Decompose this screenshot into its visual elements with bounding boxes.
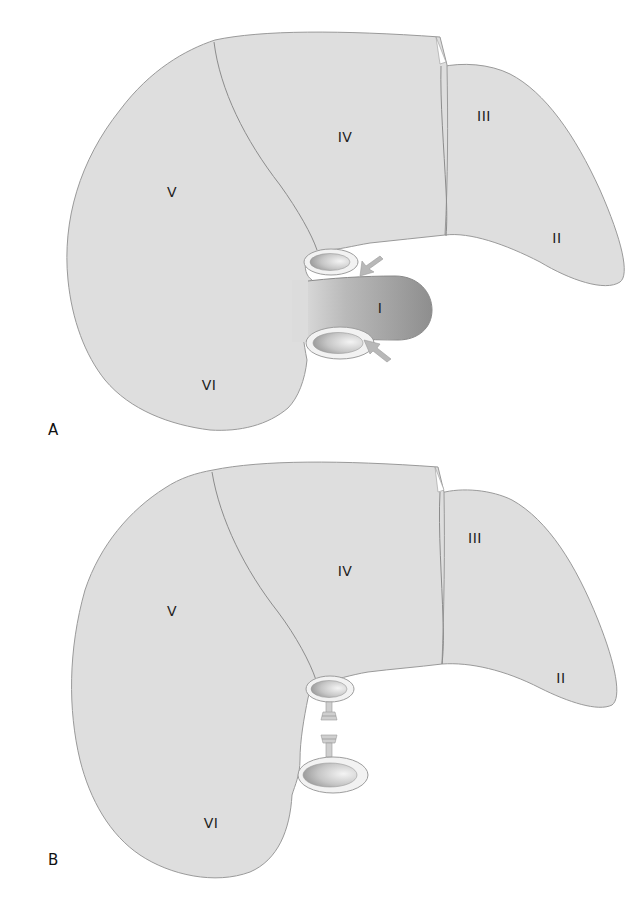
lower-vessel [298, 757, 368, 793]
ligated-stump-lower [321, 735, 337, 757]
panel-label-a: A [48, 421, 59, 439]
panel-b: IV III II V VI B [48, 462, 617, 878]
upper-vessel [306, 676, 354, 702]
segment-label-ii: II [552, 230, 561, 246]
segment-label-iii: III [468, 530, 482, 546]
panel-a: IV III II V VI I A [48, 32, 624, 439]
segment-iv-v-vi-region [67, 32, 448, 430]
panel-label-b: B [48, 851, 58, 869]
segment-label-iii: III [477, 108, 491, 124]
segment-label-v: V [167, 603, 177, 619]
segment-label-v: V [167, 184, 177, 200]
segment-label-ii: II [556, 670, 565, 686]
ligated-stump-upper [321, 702, 337, 720]
liver-segment-diagram: IV III II V VI I A [0, 0, 632, 900]
segment-ii-iii-region [441, 490, 617, 707]
segment-iv-v-vi-region [72, 462, 445, 878]
segment-ii-iii-region [441, 64, 624, 285]
segment-label-i: I [378, 300, 383, 316]
segment-label-iv: IV [338, 129, 353, 145]
segment-label-vi: VI [204, 815, 219, 831]
upper-vessel [304, 249, 358, 275]
lower-vessel [306, 327, 374, 359]
caudate-blend [292, 280, 308, 342]
segment-label-iv: IV [338, 563, 353, 579]
arrow-icon [360, 256, 383, 276]
segment-label-vi: VI [202, 377, 217, 393]
